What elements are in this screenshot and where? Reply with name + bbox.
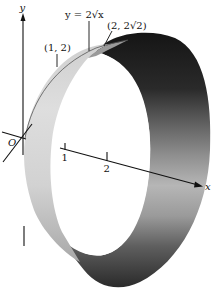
x-axis-label: x [205,181,211,192]
point-end-label: (2, 2√2) [107,20,147,31]
x-tick-label-1: 1 [62,152,68,163]
y-axis-arrow-icon [21,13,26,21]
point-start-label: (1, 2) [44,42,71,53]
origin-label: O [8,137,16,148]
y-axis: y [19,2,26,155]
curve-equation-label: y = 2√x [64,9,104,20]
surface-of-revolution-figure: y O x 1 2 (1, 2) y = 2√x (2, 2√2) [0,0,218,292]
x-tick-label-2: 2 [104,163,110,174]
y-axis-label: y [19,2,26,13]
